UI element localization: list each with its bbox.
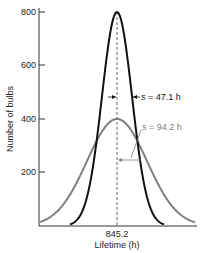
arrowhead-icon — [112, 95, 116, 99]
y-tick-label-400: 400 — [21, 114, 36, 124]
y-tick-label-800: 800 — [21, 7, 36, 17]
std-value-gray: = 94.2 h — [147, 122, 182, 132]
std-label-gray: s = 94.2 h — [142, 122, 182, 132]
x-tick-label-mean: 845.2 — [106, 229, 129, 239]
y-axis-label: Number of bulbs — [5, 85, 15, 152]
std-label-black: s = 47.1 h — [141, 92, 181, 102]
x-axis-label: Lifetime (h) — [94, 240, 139, 250]
arrowhead-icon — [133, 95, 137, 99]
std-value-black: = 47.1 h — [146, 92, 181, 102]
y-tick-label-600: 600 — [21, 60, 36, 70]
y-tick-label-200: 200 — [21, 167, 36, 177]
arrowhead-icon — [118, 158, 122, 162]
normal-distribution-chart: 800 600 400 200 Number of bulbs 845.2 Li… — [0, 0, 211, 253]
curve-s-94-2 — [40, 119, 195, 222]
